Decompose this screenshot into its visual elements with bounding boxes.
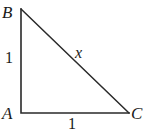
side-label-vertical-leg: 1: [5, 50, 13, 66]
triangle-shape: [0, 0, 147, 134]
triangle-hypotenuse-path: [21, 9, 129, 113]
vertex-label-c: C: [131, 105, 142, 122]
side-label-horizontal-leg: 1: [68, 116, 76, 132]
side-label-hypotenuse: x: [75, 45, 82, 61]
vertex-label-b: B: [2, 4, 12, 21]
right-triangle-figure: B A C 1 1 x: [0, 0, 147, 134]
vertex-label-a: A: [2, 105, 12, 122]
